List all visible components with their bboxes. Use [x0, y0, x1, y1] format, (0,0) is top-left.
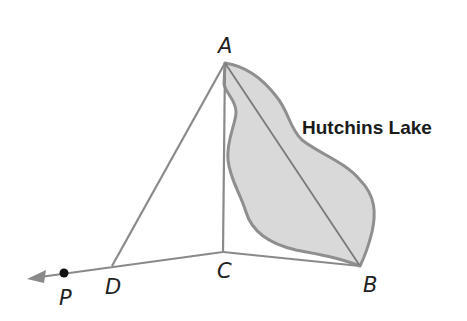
label-b: B	[363, 273, 377, 297]
label-c: C	[217, 259, 232, 283]
segment-ad	[112, 63, 225, 266]
lake-label: Hutchins Lake	[302, 117, 432, 138]
label-d: D	[105, 275, 121, 299]
geometry-diagram: A B C D P Hutchins Lake	[0, 0, 467, 321]
arrowhead-icon	[27, 270, 46, 283]
point-p-dot	[60, 269, 69, 278]
label-p: P	[59, 286, 72, 310]
label-a: A	[216, 34, 232, 58]
segment-ac	[223, 63, 225, 252]
hutchins-lake-region	[224, 63, 374, 266]
